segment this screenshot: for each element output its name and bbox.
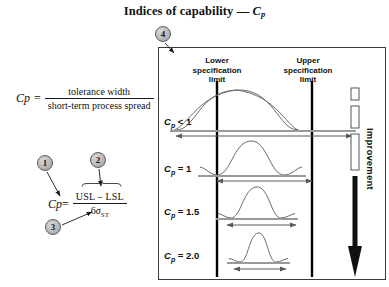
callout-bubble-1[interactable]: 1 <box>37 155 53 171</box>
improvement-label: Improvement <box>365 128 376 190</box>
numerator-brace <box>82 182 121 187</box>
cp-row-value-3: = 2.0 <box>178 250 199 261</box>
page-title: Indices of capability — Cp <box>0 4 389 19</box>
upper-spec-line-2: specification <box>268 66 348 76</box>
upper-spec-line-3: limit <box>268 75 348 85</box>
cp-row-value-0: < 1 <box>178 116 191 127</box>
cp-row-value-2: = 1.5 <box>178 206 199 217</box>
lower-spec-line-2: specification <box>177 66 257 76</box>
page-title-text: Indices of capability <box>124 4 234 18</box>
formula-definition-lhs-subscript: p <box>24 91 30 105</box>
cp-row-label-1: Cp = 1 <box>164 163 191 176</box>
formula-expanded-denominator: 6σST <box>73 203 127 219</box>
cp-row-label-2: Cp = 1.5 <box>164 206 199 219</box>
formula-expanded-equals: = <box>62 197 69 211</box>
upper-specification-limit-label: Upper specification limit <box>268 56 348 85</box>
callout-bubble-2[interactable]: 2 <box>90 152 106 168</box>
cp-row-symbol-0: C <box>164 116 171 127</box>
formula-expanded-denominator-subscript: ST <box>101 211 109 219</box>
lower-specification-limit-label: Lower specification limit <box>177 56 257 85</box>
cp-row-label-3: Cp = 2.0 <box>164 250 199 263</box>
cp-row-symbol-2: C <box>164 206 171 217</box>
cp-row-subscript-0: p <box>171 122 175 129</box>
formula-definition-lhs: C <box>16 91 24 105</box>
formula-definition-fraction: tolerance width short-term process sprea… <box>45 86 154 111</box>
callout-bubble-4[interactable]: 4 <box>155 26 171 42</box>
formula-definition: Cp = tolerance width short-term process … <box>16 86 154 111</box>
cp-row-subscript-2: p <box>171 212 175 219</box>
formula-expanded-numerator: USL – LSL <box>73 191 127 203</box>
lower-spec-line-1: Lower <box>177 56 257 66</box>
cp-row-subscript-1: p <box>171 169 175 176</box>
cp-row-symbol-3: C <box>164 250 171 261</box>
upper-spec-line-1: Upper <box>268 56 348 66</box>
lower-spec-line-3: limit <box>177 75 257 85</box>
cp-row-value-1: = 1 <box>178 163 191 174</box>
callout-bubble-3[interactable]: 3 <box>45 219 61 235</box>
title-dash: — <box>237 4 250 18</box>
formula-expanded-lhs: C <box>48 197 56 211</box>
title-symbol: C <box>253 4 261 18</box>
formula-definition-numerator: tolerance width <box>45 86 154 98</box>
cp-row-subscript-3: p <box>171 256 175 263</box>
formula-definition-equals: = <box>34 91 41 105</box>
formula-expanded-fraction: USL – LSL 6σST <box>73 191 127 219</box>
figure-root: Indices of capability — Cp Cp = toleranc… <box>0 0 389 287</box>
formula-definition-denominator: short-term process spread <box>45 98 154 111</box>
cp-row-label-0: Cp < 1 <box>164 116 191 129</box>
formula-expanded: Cp= USL – LSL 6σST <box>48 191 127 219</box>
cp-row-symbol-1: C <box>164 163 171 174</box>
title-symbol-subscript: p <box>261 9 265 19</box>
